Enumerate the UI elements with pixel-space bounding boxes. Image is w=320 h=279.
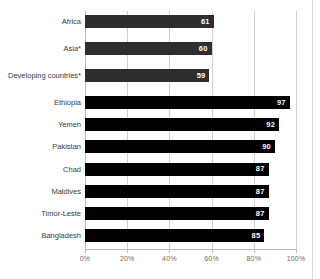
bar-value-label: 60	[199, 45, 212, 53]
bar-row: 59	[85, 69, 296, 82]
category-label: Africa	[62, 15, 81, 28]
bar-row: 92	[85, 118, 296, 131]
bar-row: 97	[85, 96, 296, 109]
x-tick-label: 80%	[246, 255, 261, 262]
bar-rows: 61605997929087878785	[85, 11, 296, 249]
x-tick-label: 0%	[80, 255, 91, 262]
bar-chart: AfricaAsia*Developing countries*Ethiopia…	[0, 0, 320, 279]
bar: 87	[85, 163, 269, 176]
gridline-100pct	[296, 11, 297, 249]
bar: 92	[85, 118, 279, 131]
bar: 59	[85, 69, 209, 82]
bar: 61	[85, 15, 214, 28]
category-label: Ethiopia	[54, 96, 81, 109]
bar-row: 87	[85, 185, 296, 198]
category-label: Pakistan	[52, 140, 81, 153]
tick-mark-20pct	[127, 249, 128, 253]
x-tick-label: 20%	[120, 255, 135, 262]
category-axis-labels: AfricaAsia*Developing countries*Ethiopia…	[0, 11, 81, 249]
bar-value-label: 85	[252, 232, 265, 240]
bar: 87	[85, 185, 269, 198]
category-label: Bangladesh	[41, 229, 81, 242]
bar: 60	[85, 42, 212, 55]
bar-value-label: 87	[256, 165, 269, 173]
bar: 90	[85, 140, 275, 153]
category-label: Timor-Leste	[41, 207, 81, 220]
bar: 87	[85, 207, 269, 220]
category-label: Yemen	[58, 118, 81, 131]
category-label: Developing countries*	[8, 69, 81, 82]
x-axis-tick-marks	[85, 249, 296, 253]
bar-value-label: 87	[256, 210, 269, 218]
bar-value-label: 92	[266, 121, 279, 129]
x-tick-label: 60%	[204, 255, 219, 262]
bar-row: 90	[85, 140, 296, 153]
bar-row: 85	[85, 229, 296, 242]
tick-mark-0pct	[85, 249, 86, 253]
bar-value-label: 61	[201, 18, 214, 26]
bar: 97	[85, 96, 290, 109]
bar-value-label: 97	[277, 99, 290, 107]
bar-value-label: 59	[197, 72, 210, 80]
category-label: Chad	[63, 163, 81, 176]
x-tick-label: 100%	[287, 255, 306, 262]
bar-value-label: 90	[262, 143, 275, 151]
tick-mark-100pct	[296, 249, 297, 253]
bar-row: 60	[85, 42, 296, 55]
bar-row: 61	[85, 15, 296, 28]
tick-mark-60pct	[212, 249, 213, 253]
x-tick-label: 40%	[162, 255, 177, 262]
bar-row: 87	[85, 163, 296, 176]
tick-mark-80pct	[254, 249, 255, 253]
bar: 85	[85, 229, 264, 242]
category-label: Asia*	[63, 42, 81, 55]
x-axis-tick-labels: 0%20%40%60%80%100%	[85, 255, 296, 269]
plot-area: 61605997929087878785	[85, 11, 296, 249]
tick-mark-40pct	[169, 249, 170, 253]
bar-value-label: 87	[256, 188, 269, 196]
page-edge-rule	[312, 0, 313, 279]
bar-row: 87	[85, 207, 296, 220]
category-label: Maldives	[51, 185, 81, 198]
